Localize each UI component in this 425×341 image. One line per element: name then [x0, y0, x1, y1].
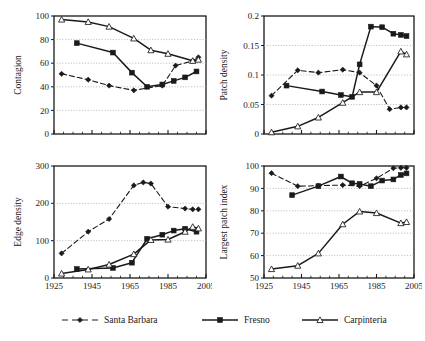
x-axis-tick-label: 1965 [330, 281, 349, 291]
y-axis-tick-label: 60 [250, 251, 260, 261]
y-axis-title: Contagion [13, 55, 23, 95]
data-point-marker [171, 228, 176, 233]
legend-label: Santa Barbara [104, 315, 158, 325]
plot-area: 00.050.10.150.2 [243, 11, 414, 139]
legend-label: Carpinteria [344, 315, 388, 325]
y-axis-tick-label: 0 [255, 129, 260, 139]
chart-panel-edge-density: 010020030019251945196519852005Edge densi… [8, 156, 212, 304]
data-point-marker [130, 260, 135, 265]
data-point-marker [316, 184, 321, 189]
plot-area: 506070809010019251945196519852005 [246, 161, 423, 290]
y-axis-tick-label: 0.05 [243, 100, 259, 110]
y-axis-tick-label: 90 [250, 184, 260, 194]
data-point-marker [194, 69, 199, 74]
y-axis-tick-label: 100 [36, 11, 50, 21]
data-point-marker [284, 83, 289, 88]
y-axis-title: Patch density [219, 49, 229, 100]
data-point-marker [368, 184, 373, 189]
data-point-marker [145, 84, 150, 89]
panel-grid: 020406080100Contagion 00.050.10.150.2Pat… [0, 0, 425, 300]
y-axis-tick-label: 20 [40, 106, 50, 116]
data-point-marker [160, 232, 165, 237]
figure-container: 020406080100Contagion 00.050.10.150.2Pat… [0, 0, 425, 341]
y-axis-tick-label: 300 [36, 161, 50, 171]
data-point-marker [391, 31, 396, 36]
chart-panel-largest-patch-index: 506070809010019251945196519852005Largest… [212, 156, 422, 304]
data-point-marker [404, 34, 409, 39]
data-point-marker [398, 173, 403, 178]
legend-svg: Santa BarbaraFresnoCarpinteria [0, 303, 425, 337]
contagion-chart-svg: 020406080100Contagion [8, 6, 212, 156]
x-axis-tick-label: 1925 [45, 281, 64, 291]
x-axis-tick-label: 1925 [255, 281, 274, 291]
filled-square-marker [218, 318, 223, 323]
y-axis-title: Largest patch index [219, 184, 229, 259]
y-axis-tick-label: 40 [40, 82, 50, 92]
data-point-marker [357, 62, 362, 67]
x-axis-tick-label: 1945 [293, 281, 312, 291]
chart-panel-contagion: 020406080100Contagion [8, 6, 212, 156]
diamond-marker [77, 317, 82, 322]
x-axis-tick-label: 1985 [159, 281, 178, 291]
data-point-marker [338, 93, 343, 98]
plot-frame [264, 166, 414, 278]
y-axis-tick-label: 80 [250, 206, 260, 216]
data-point-marker [350, 181, 355, 186]
x-axis-tick-label: 1945 [83, 281, 102, 291]
data-point-marker [160, 82, 165, 87]
legend-item-carpinteria: Carpinteria [302, 315, 388, 325]
y-axis-tick-label: 0 [45, 129, 50, 139]
x-axis-tick-label: 1985 [368, 281, 387, 291]
data-point-marker [398, 32, 403, 37]
data-point-marker [183, 75, 188, 80]
y-axis-tick-label: 200 [36, 198, 50, 208]
data-point-marker [338, 174, 343, 179]
data-point-marker [404, 171, 409, 176]
chart-panel-patch-density: 00.050.10.150.2Patch density [212, 6, 422, 156]
y-axis-tick-label: 0.15 [243, 41, 259, 51]
data-point-marker [320, 89, 325, 94]
data-point-marker [380, 178, 385, 183]
largest-patch-index-chart-svg: 506070809010019251945196519852005Largest… [212, 156, 422, 304]
y-axis-title: Edge density [13, 197, 23, 247]
legend-label: Fresno [244, 315, 270, 325]
figure-legend: Santa BarbaraFresnoCarpinteria [0, 303, 425, 337]
legend-item-fresno: Fresno [202, 315, 270, 325]
y-axis-tick-label: 100 [246, 161, 260, 171]
y-axis-tick-label: 80 [40, 35, 50, 45]
legend-item-santa-barbara: Santa Barbara [62, 315, 158, 325]
data-point-marker [391, 177, 396, 182]
data-point-marker [290, 193, 295, 198]
patch-density-chart-svg: 00.050.10.150.2Patch density [212, 6, 422, 156]
y-axis-tick-label: 100 [36, 236, 50, 246]
data-point-marker [380, 25, 385, 30]
x-axis-tick-label: 2005 [405, 281, 422, 291]
plot-area: 020406080100 [36, 11, 207, 139]
edge-density-chart-svg: 010020030019251945196519852005Edge densi… [8, 156, 212, 304]
y-axis-tick-label: 0.2 [248, 11, 259, 21]
x-axis-tick-label: 1965 [121, 281, 140, 291]
data-point-marker [357, 182, 362, 187]
y-axis-tick-label: 70 [250, 228, 260, 238]
data-point-marker [171, 79, 176, 84]
data-point-marker [130, 70, 135, 75]
x-axis-tick-label: 2005 [197, 281, 212, 291]
data-point-marker [74, 41, 79, 46]
y-axis-tick-label: 0.1 [248, 70, 259, 80]
data-point-marker [111, 50, 116, 55]
y-axis-tick-label: 60 [40, 58, 50, 68]
plot-area: 010020030019251945196519852005 [36, 161, 213, 290]
data-point-marker [368, 24, 373, 29]
